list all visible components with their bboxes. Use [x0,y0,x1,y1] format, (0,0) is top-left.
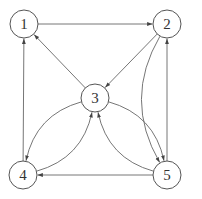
node-2-label: 2 [163,16,171,32]
edge-2-to-5 [141,36,160,162]
node-3[interactable]: 3 [81,84,109,112]
node-2[interactable]: 2 [153,10,181,38]
edge-4-to-3 [37,112,93,171]
node-5[interactable]: 5 [153,161,181,189]
edge-4-to-1 [23,39,24,162]
edge-3-to-1 [34,35,85,88]
edge-5-to-3 [98,112,154,171]
node-4-label: 4 [19,167,27,183]
edge-3-to-4 [26,102,82,161]
node-1-label: 1 [20,16,28,32]
directed-graph: 1 2 3 4 5 [0,0,202,199]
node-3-label: 3 [91,90,99,106]
edge-2-to-3 [105,34,157,88]
nodes: 1 2 3 4 5 [9,10,181,189]
edge-3-to-5 [109,102,165,161]
node-4[interactable]: 4 [9,161,37,189]
node-5-label: 5 [163,167,171,183]
node-1[interactable]: 1 [10,10,38,38]
